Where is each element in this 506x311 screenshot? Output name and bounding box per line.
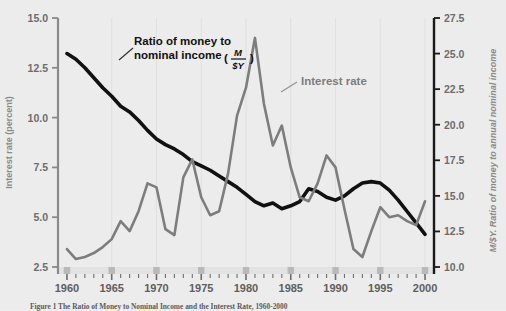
x-axis-tick-label: 1965: [99, 282, 123, 294]
left-axis-tick-label: 7.5: [33, 161, 48, 173]
money-ratio-numerator: M: [234, 47, 243, 58]
left-axis-title: Interest rate (percent): [4, 96, 14, 189]
right-axis-tick-label: 17.5: [444, 154, 465, 166]
x-axis-tick-label: 1970: [144, 282, 168, 294]
left-axis-tick-label: 10.0: [28, 112, 49, 124]
left-axis-tick-label: 2.5: [33, 261, 48, 273]
x-axis-major-band: [243, 267, 249, 274]
x-axis-major-band: [153, 267, 159, 274]
right-axis-tick-label: 15.0: [444, 190, 465, 202]
x-axis-major-band: [288, 267, 294, 274]
left-axis-tick-label: 5.0: [33, 211, 48, 223]
right-axis-tick-label: 10.0: [444, 261, 465, 273]
x-axis-tick-label: 1960: [55, 282, 79, 294]
x-axis-tick-label: 1985: [279, 282, 303, 294]
right-axis-title: M/$Y. Ratio of money to annual nominal i…: [488, 49, 498, 253]
x-axis-tick-label: 1975: [189, 282, 213, 294]
x-axis-major-band: [422, 267, 428, 274]
x-axis-tick-label: 2000: [413, 282, 437, 294]
right-axis-tick-label: 25.0: [444, 48, 465, 60]
money-ratio-paren-open: (: [224, 52, 228, 64]
caption-number: Figure 1: [30, 302, 56, 311]
left-axis-tick-label: 15.0: [28, 12, 49, 24]
right-axis-tick-label: 22.5: [444, 83, 465, 95]
right-axis-tick-label: 27.5: [444, 12, 465, 24]
x-axis-tick-label: 1990: [323, 282, 347, 294]
caption-text: The Ratio of Money to Nominal Income and…: [58, 302, 287, 311]
right-axis-tick-label: 20.0: [444, 119, 465, 131]
x-axis-major-band: [377, 267, 383, 274]
figure-caption: Figure 1 The Ratio of Money to Nominal I…: [30, 302, 500, 311]
left-axis-tick-label: 12.5: [28, 62, 49, 74]
money-ratio-label-line2: nominal income: [134, 49, 222, 61]
money-ratio-paren-close: ): [250, 52, 254, 64]
x-axis-major-band: [109, 267, 115, 274]
x-axis-major-band: [198, 267, 204, 274]
x-axis-tick-label: 1995: [368, 282, 392, 294]
x-axis-major-band: [332, 267, 338, 274]
money-ratio-denominator: $Y: [231, 60, 245, 71]
x-axis-tick-label: 1980: [234, 282, 258, 294]
right-axis-tick-label: 12.5: [444, 225, 465, 237]
money-ratio-label-line1: Ratio of money to: [134, 35, 231, 47]
interest-rate-label: Interest rate: [301, 75, 367, 87]
x-axis-major-band: [64, 267, 70, 274]
